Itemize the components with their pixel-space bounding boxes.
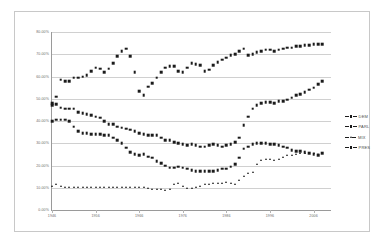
data-point-parl — [256, 104, 259, 107]
data-point-dem — [94, 66, 97, 69]
data-point-mix — [265, 158, 267, 160]
data-point-dem — [129, 55, 132, 58]
data-point-mix — [68, 186, 70, 188]
data-point-mix — [60, 185, 62, 187]
data-point-mix — [269, 158, 271, 160]
data-point-parl — [308, 89, 311, 92]
data-point-parl — [168, 139, 171, 142]
data-point-pres — [177, 165, 180, 168]
y-axis-tick-label: 20.00% — [36, 164, 49, 168]
data-point-mix — [225, 181, 227, 183]
legend-line-icon — [352, 137, 356, 138]
data-point-parl — [216, 144, 219, 147]
data-point-mix — [212, 182, 214, 184]
data-point-dem — [81, 75, 84, 78]
data-point-pres — [168, 166, 171, 169]
data-point-dem — [290, 46, 293, 49]
data-point-parl — [304, 91, 307, 94]
data-point-dem — [64, 80, 67, 83]
data-point-parl — [229, 143, 232, 146]
data-point-pres — [151, 156, 154, 159]
data-point-mix — [260, 159, 262, 161]
data-point-dem — [103, 71, 106, 74]
data-point-mix — [103, 186, 105, 188]
data-point-dem — [168, 65, 171, 68]
x-axis-tick — [139, 210, 140, 213]
data-point-dem — [317, 43, 320, 46]
data-point-parl — [277, 100, 280, 103]
data-point-parl — [94, 115, 97, 118]
data-point-pres — [273, 143, 276, 146]
data-point-dem — [142, 94, 145, 97]
data-point-pres — [181, 166, 184, 169]
x-axis-tick — [52, 210, 53, 213]
data-point-mix — [108, 186, 110, 188]
data-point-dem — [243, 47, 246, 50]
data-point-dem — [251, 53, 254, 56]
data-point-dem — [155, 76, 158, 79]
data-point-pres — [277, 144, 280, 147]
data-point-pres — [195, 170, 198, 173]
data-point-dem — [190, 62, 193, 65]
data-point-pres — [94, 133, 97, 136]
data-point-pres — [129, 151, 132, 154]
data-point-pres — [134, 153, 137, 156]
data-point-parl — [208, 144, 211, 147]
gridline — [52, 99, 331, 100]
data-point-pres — [190, 169, 193, 172]
data-point-pres — [208, 170, 211, 173]
data-point-parl — [195, 144, 198, 147]
data-point-parl — [173, 141, 176, 144]
data-point-parl — [55, 103, 58, 106]
data-point-parl — [181, 143, 184, 146]
y-axis-tick-label: 40.00% — [36, 119, 49, 123]
data-point-pres — [243, 148, 246, 151]
legend-item-parl[interactable]: PARL — [345, 122, 382, 133]
data-point-pres — [317, 154, 320, 157]
data-point-dem — [55, 95, 58, 98]
data-point-pres — [269, 143, 272, 146]
data-point-parl — [295, 94, 298, 97]
data-point-mix — [286, 154, 288, 156]
data-point-dem — [238, 50, 241, 53]
data-point-parl — [142, 133, 145, 136]
data-point-pres — [203, 170, 206, 173]
data-point-parl — [199, 145, 202, 148]
data-point-dem — [164, 66, 167, 69]
data-point-parl — [186, 144, 189, 147]
data-point-parl — [129, 129, 132, 132]
data-point-mix — [116, 186, 118, 188]
data-point-parl — [290, 96, 293, 99]
data-point-pres — [199, 170, 202, 173]
data-point-dem — [256, 51, 259, 54]
data-point-mix — [86, 186, 88, 188]
data-point-parl — [160, 136, 163, 139]
data-point-dem — [225, 56, 228, 59]
data-point-mix — [208, 183, 210, 185]
data-point-pres — [299, 150, 302, 153]
data-point-parl — [125, 127, 128, 130]
legend-item-mix[interactable]: MIX — [345, 132, 382, 143]
data-point-parl — [77, 111, 80, 114]
data-point-parl — [190, 143, 193, 146]
y-axis-tick-label: 80.00% — [36, 30, 49, 34]
data-point-dem — [273, 50, 276, 53]
data-point-pres — [116, 139, 119, 142]
data-point-dem — [264, 49, 267, 52]
data-point-pres — [86, 132, 89, 135]
data-point-pres — [120, 142, 123, 145]
data-point-parl — [116, 125, 119, 128]
data-point-dem — [229, 54, 232, 57]
data-point-pres — [90, 133, 93, 136]
data-point-dem — [151, 82, 154, 85]
data-point-dem — [125, 47, 128, 50]
data-point-dem — [73, 76, 76, 79]
plot-area: 80.00%70.00%60.00%50.00%40.00%30.00%20.0… — [51, 32, 331, 211]
data-point-pres — [238, 156, 241, 159]
legend-item-dem[interactable]: DEM — [345, 111, 382, 122]
legend-item-pres[interactable]: PRES — [345, 143, 382, 154]
data-point-pres — [55, 119, 58, 122]
data-point-parl — [286, 99, 289, 102]
data-point-mix — [204, 183, 206, 185]
data-point-pres — [112, 136, 115, 139]
